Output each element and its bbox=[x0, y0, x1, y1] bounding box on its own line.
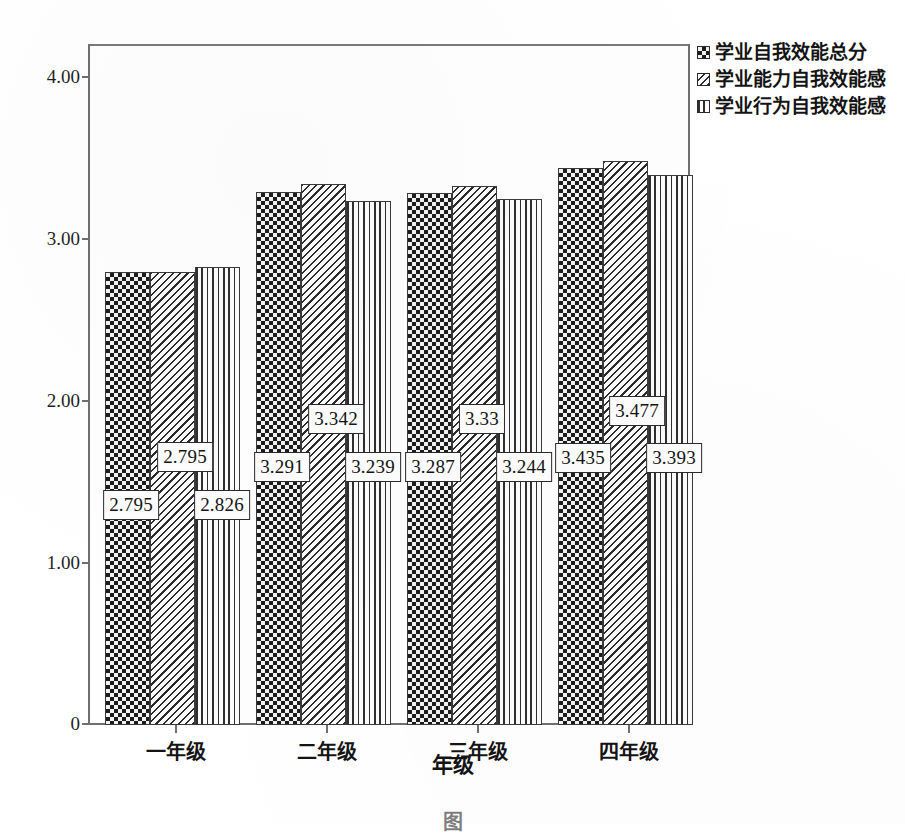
y-tick-label-2: 2.00 bbox=[0, 390, 80, 412]
data-label-g4-s3: 3.393 bbox=[646, 443, 702, 473]
data-label-g2-s2: 3.342 bbox=[308, 404, 364, 434]
legend-label-2: 学业行为自我效能感 bbox=[715, 97, 886, 116]
x-tick-mark-3 bbox=[477, 725, 479, 733]
data-label-g1-s1: 2.795 bbox=[103, 490, 159, 520]
legend-label-0: 学业自我效能总分 bbox=[715, 43, 867, 62]
data-label-g1-s2: 2.795 bbox=[157, 442, 213, 472]
y-tick-label-1: 1.00 bbox=[0, 552, 80, 574]
data-label-g3-s3: 3.244 bbox=[496, 452, 552, 482]
x-tick-mark-2 bbox=[326, 725, 328, 733]
y-axis: 4.00 3.00 2.00 1.00 0 bbox=[0, 0, 88, 824]
legend-item-2: 学业行为自我效能感 bbox=[697, 94, 902, 118]
x-axis-title: 年级 bbox=[0, 748, 905, 778]
legend-swatch-vertical-lines-icon bbox=[697, 100, 710, 113]
x-tick-mark-4 bbox=[628, 725, 630, 733]
data-label-g3-s2: 3.33 bbox=[459, 404, 505, 434]
data-label-g4-s1: 3.435 bbox=[555, 443, 611, 473]
data-label-g1-s3: 2.826 bbox=[194, 490, 250, 520]
legend-swatch-diagonal-hatch-icon bbox=[697, 73, 710, 86]
legend: 学业自我效能总分 学业能力自我效能感 学业行为自我效能感 bbox=[697, 40, 902, 121]
legend-label-1: 学业能力自我效能感 bbox=[715, 70, 886, 89]
x-tick-mark-1 bbox=[175, 725, 177, 733]
y-tick-label-3: 3.00 bbox=[0, 228, 80, 250]
data-label-g3-s1: 3.287 bbox=[405, 452, 461, 482]
data-label-g2-s3: 3.239 bbox=[345, 452, 401, 482]
data-label-g4-s2: 3.477 bbox=[609, 396, 665, 426]
y-tick-label-0: 0 bbox=[0, 713, 80, 735]
legend-item-1: 学业能力自我效能感 bbox=[697, 67, 902, 91]
legend-item-0: 学业自我效能总分 bbox=[697, 40, 902, 64]
legend-swatch-checkerboard-icon bbox=[697, 46, 710, 59]
y-tick-label-4: 4.00 bbox=[0, 66, 80, 88]
data-label-g2-s1: 3.291 bbox=[254, 452, 310, 482]
figure-caption: 图 bbox=[0, 806, 905, 835]
